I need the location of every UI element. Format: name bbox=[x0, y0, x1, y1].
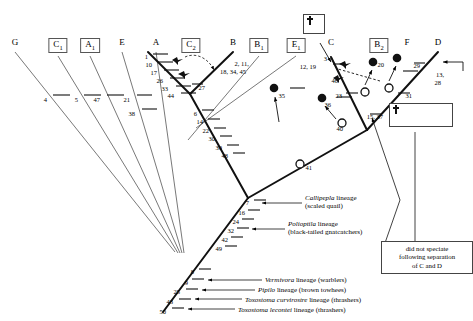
character-number: 48 bbox=[222, 152, 229, 159]
taxon-label-B1: B1 bbox=[249, 38, 268, 53]
character-number: 35 bbox=[279, 92, 286, 99]
character-number: 10 bbox=[146, 61, 153, 68]
character-number: 16 bbox=[239, 209, 246, 216]
filled-circle-marker bbox=[270, 84, 279, 93]
character-number: 20 bbox=[378, 61, 385, 68]
character-number: 14 bbox=[197, 118, 204, 125]
phylogenetic-tree-figure: G C1 A1 E A C2 B B1 E1 C B2 F D did not … bbox=[0, 0, 473, 321]
dashed-transfer-arrow bbox=[185, 55, 214, 70]
note-box-did-not-speciate: did not speciate following separation of… bbox=[381, 241, 473, 274]
character-number: 42 bbox=[222, 236, 229, 243]
character-number: 9 bbox=[185, 279, 188, 286]
character-number: 32 bbox=[228, 227, 235, 234]
character-number: 36 bbox=[325, 101, 332, 108]
taxon-label-A1: A1 bbox=[80, 38, 100, 53]
taxon-label-C: C bbox=[328, 38, 334, 47]
lineage-genus: Vermivora bbox=[265, 276, 294, 284]
event-markers bbox=[270, 54, 402, 168]
character-number: 13, bbox=[436, 71, 444, 78]
character-number: 27 bbox=[199, 84, 206, 91]
filled-circle-marker bbox=[393, 54, 402, 63]
character-number: 22 bbox=[203, 127, 210, 134]
character-number: 7 bbox=[246, 199, 249, 206]
character-number: 18, 34, 45 bbox=[220, 68, 246, 75]
character-number: 46 bbox=[332, 77, 339, 84]
character-number: 6 bbox=[194, 110, 197, 117]
cross-icon bbox=[304, 15, 316, 27]
lineage-label-pipilo: Pipilo lineage (brown towhees) bbox=[258, 286, 346, 294]
character-number: 15, 37 bbox=[367, 113, 383, 120]
taxon-label-A: A bbox=[153, 38, 160, 47]
thin-lineage-branches bbox=[15, 52, 296, 253]
character-number: 30 bbox=[209, 135, 216, 142]
lineage-genus: Toxostoma lecontei bbox=[238, 306, 292, 314]
character-number: 29 bbox=[414, 62, 421, 69]
character-number: 28 bbox=[435, 79, 442, 86]
character-number: 21 bbox=[124, 96, 131, 103]
open-circle-marker bbox=[361, 88, 369, 96]
single-cross-symbol-box bbox=[303, 14, 325, 34]
character-number: 39 bbox=[216, 144, 223, 151]
character-number: 17 bbox=[151, 69, 158, 76]
lineage-common-name: (black-tailed gnatcatchers) bbox=[288, 228, 362, 236]
taxon-label-E1: E1 bbox=[287, 38, 306, 53]
note-line-3: of C and D bbox=[386, 262, 468, 270]
filled-circle-marker bbox=[369, 58, 378, 67]
open-circle-marker bbox=[296, 160, 304, 168]
character-number: 43 bbox=[167, 298, 174, 305]
lineage-label-toxostoma-curvirostre: Toxostoma curvirostre lineage (thrashers… bbox=[245, 296, 361, 304]
lineage-genus: Toxostoma curvirostre bbox=[245, 296, 307, 304]
lineage-genus: Pipilo bbox=[258, 286, 275, 294]
note-line-1: did not speciate bbox=[386, 245, 468, 253]
lineage-common-name: (scaled quail) bbox=[305, 202, 357, 210]
character-number: 1 bbox=[145, 53, 148, 60]
triple-cross-symbol-box bbox=[389, 103, 453, 127]
character-number: 44 bbox=[168, 92, 175, 99]
cross-icon bbox=[390, 104, 402, 116]
open-circle-marker bbox=[385, 84, 393, 92]
character-number: 38 bbox=[129, 110, 136, 117]
character-number: 40 bbox=[337, 125, 344, 132]
lineage-label-toxostoma-lecontei: Toxostoma lecontei lineage (thrashers) bbox=[238, 306, 346, 314]
lineage-label-callipepla: Callipepla lineage (scaled quail) bbox=[305, 194, 357, 211]
character-number: 26 bbox=[157, 77, 164, 84]
character-number: 23 bbox=[336, 92, 343, 99]
character-number: 2, 11, bbox=[235, 60, 249, 67]
note-line-2: following separation bbox=[386, 253, 468, 261]
character-number: 24 bbox=[233, 218, 240, 225]
taxon-label-B: B bbox=[230, 38, 236, 47]
taxon-label-E: E bbox=[119, 38, 125, 47]
character-number: 3 bbox=[324, 55, 327, 62]
character-number: 12, 19 bbox=[300, 63, 316, 70]
character-number: 41 bbox=[306, 164, 313, 171]
character-number: 25 bbox=[174, 288, 181, 295]
taxon-label-B2: B2 bbox=[369, 38, 388, 53]
character-number: 5 bbox=[75, 96, 78, 103]
character-number: 49 bbox=[216, 245, 223, 252]
lineage-label-vermivora: Vermivora lineage (warblers) bbox=[265, 276, 347, 284]
lineage-genus: Polioptila bbox=[288, 220, 316, 228]
character-number: 31 bbox=[406, 92, 413, 99]
character-number: 50 bbox=[160, 308, 167, 315]
character-number: 8 bbox=[191, 268, 194, 275]
lineage-label-polioptila: Polioptila lineage (black-tailed gnatcat… bbox=[288, 220, 362, 237]
taxon-label-C2: C2 bbox=[181, 38, 200, 53]
taxon-label-C1: C1 bbox=[48, 38, 67, 53]
lineage-genus: Callipepla bbox=[305, 194, 335, 202]
character-number: 4 bbox=[44, 96, 47, 103]
character-number: 47 bbox=[94, 96, 101, 103]
taxon-label-F: F bbox=[404, 38, 409, 47]
taxon-label-D: D bbox=[435, 38, 442, 47]
taxon-label-G: G bbox=[12, 38, 19, 47]
